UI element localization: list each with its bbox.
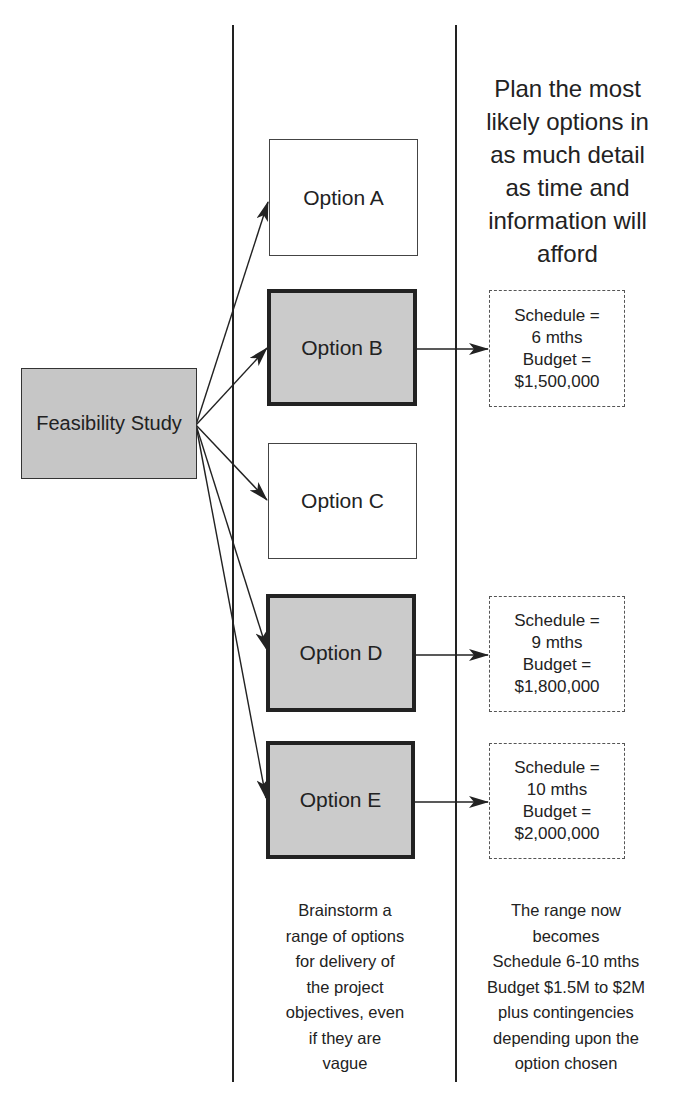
budget-value: $2,000,000 [514,823,599,845]
budget-label: Budget = [523,654,592,676]
budget-value: $1,500,000 [514,371,599,393]
plan-box-d: Schedule = 9 mths Budget = $1,800,000 [489,596,625,712]
schedule-label: Schedule = [514,757,600,779]
schedule-label: Schedule = [514,305,600,327]
budget-label: Budget = [523,349,592,371]
schedule-value: 9 mths [531,632,582,654]
schedule-value: 10 mths [527,779,587,801]
feasibility-study-box: Feasibility Study [21,368,197,479]
option-c-label: Option C [301,489,384,513]
schedule-label: Schedule = [514,610,600,632]
arrow-to-option-a [196,202,268,425]
plan-heading: Plan the most likely options in as much … [462,72,673,270]
budget-value: $1,800,000 [514,676,599,698]
brainstorm-note: Brainstorm a range of options for delive… [236,898,454,1077]
option-a-box: Option A [269,139,418,256]
range-summary-note: The range now becomes Schedule 6-10 mths… [459,898,673,1077]
option-b-label: Option B [301,336,383,360]
plan-box-b: Schedule = 6 mths Budget = $1,500,000 [489,290,625,407]
arrow-to-option-b [196,348,267,425]
budget-label: Budget = [523,801,592,823]
option-a-label: Option A [303,186,384,210]
plan-box-e: Schedule = 10 mths Budget = $2,000,000 [489,743,625,859]
feasibility-study-label: Feasibility Study [36,412,182,435]
option-e-box: Option E [266,741,415,859]
option-b-box: Option B [267,289,417,406]
arrow-to-option-c [196,425,267,500]
option-e-label: Option E [300,788,382,812]
option-c-box: Option C [268,443,417,559]
option-d-box: Option D [266,594,416,712]
schedule-value: 6 mths [531,327,582,349]
option-d-label: Option D [300,641,383,665]
